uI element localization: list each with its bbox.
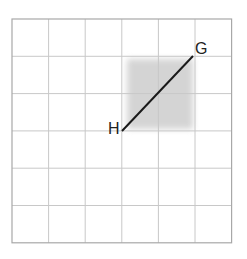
label-h: H xyxy=(108,120,120,137)
grid-diagram: G H xyxy=(0,0,247,259)
label-g: G xyxy=(195,40,207,57)
